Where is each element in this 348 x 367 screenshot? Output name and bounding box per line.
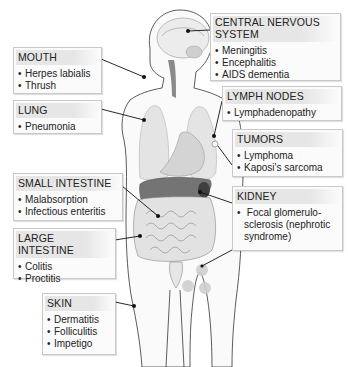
condition-item: Dermatitis: [47, 314, 111, 326]
condition-list-cns: Meningitis Encephalitis AIDS dementia: [215, 45, 336, 80]
brain-illustration: [157, 18, 209, 58]
condition-item: Impetigo: [47, 338, 111, 350]
condition-item: Kaposi's sarcoma: [237, 162, 338, 174]
condition-item: Colitis: [18, 261, 111, 273]
condition-item-line: syndrome): [244, 231, 291, 242]
mouth-leader: [101, 59, 144, 77]
condition-list-kidney: Focal glomerulo- sclerosis (nephrotic sy…: [237, 207, 338, 242]
kidney-illustration: [198, 182, 210, 198]
label-title-line: CENTRAL NERVOUS: [215, 16, 320, 28]
condition-item: AIDS dementia: [215, 69, 336, 81]
condition-item: Herpes labialis: [18, 68, 97, 80]
condition-item-line: Focal glomerulo-: [247, 207, 321, 218]
label-box-cns: CENTRAL NERVOUS SYSTEM Meningitis Enceph…: [210, 13, 341, 81]
condition-list-small-intestine: Malabsorption Infectious enteritis: [18, 194, 118, 218]
condition-item: Infectious enteritis: [18, 206, 118, 218]
condition-item: Focal glomerulo- sclerosis (nephrotic sy…: [237, 207, 338, 242]
condition-item-line: sclerosis (nephrotic: [244, 219, 330, 230]
condition-list-mouth: Herpes labialis Thrush: [18, 68, 97, 92]
hiv-body-diagram: MOUTH Herpes labialis Thrush LUNG Pneumo…: [0, 0, 348, 367]
label-title-tumors: TUMORS: [235, 132, 340, 147]
label-title-line: SYSTEM: [215, 28, 259, 40]
condition-list-tumors: Lymphoma Kaposi's sarcoma: [237, 150, 338, 174]
label-box-lymph-nodes: LYMPH NODES Lymphadenopathy: [222, 86, 342, 121]
label-title-skin: SKIN: [45, 296, 113, 311]
label-title-lung: LUNG: [16, 103, 99, 118]
label-box-kidney: KIDNEY Focal glomerulo- sclerosis (nephr…: [232, 186, 343, 251]
label-title-large-intestine: LARGE INTESTINE: [16, 231, 113, 258]
condition-list-large-intestine: Colitis Proctitis: [18, 261, 111, 285]
condition-list-skin: Dermatitis Folliculitis Impetigo: [47, 314, 111, 349]
label-box-skin: SKIN Dermatitis Folliculitis Impetigo: [42, 293, 116, 355]
condition-item: Lymphoma: [237, 150, 338, 162]
condition-item: Encephalitis: [215, 57, 336, 69]
condition-item: Proctitis: [18, 273, 111, 285]
label-title-kidney: KIDNEY: [235, 189, 340, 204]
label-box-large-intestine: LARGE INTESTINE Colitis Proctitis: [13, 228, 116, 279]
condition-item: Folliculitis: [47, 326, 111, 338]
label-title-cns: CENTRAL NERVOUS SYSTEM: [213, 16, 338, 42]
lymph-node-icon: [212, 141, 218, 147]
condition-item: Meningitis: [215, 45, 336, 57]
skin-leader: [115, 302, 134, 306]
label-title-mouth: MOUTH: [16, 50, 99, 65]
condition-item: Pneumonia: [18, 121, 97, 133]
label-box-lung: LUNG Pneumonia: [13, 100, 102, 134]
condition-item: Thrush: [18, 80, 97, 92]
condition-item: Malabsorption: [18, 194, 118, 206]
condition-list-lung: Pneumonia: [18, 121, 97, 133]
label-box-mouth: MOUTH Herpes labialis Thrush: [13, 47, 102, 94]
label-title-small-intestine: SMALL INTESTINE: [16, 176, 120, 191]
label-box-small-intestine: SMALL INTESTINE Malabsorption Infectious…: [13, 173, 123, 221]
condition-item: Lymphadenopathy: [227, 107, 337, 119]
condition-list-lymph-nodes: Lymphadenopathy: [227, 107, 337, 119]
label-title-lymph-nodes: LYMPH NODES: [225, 89, 339, 104]
label-box-tumors: TUMORS Lymphoma Kaposi's sarcoma: [232, 129, 343, 177]
